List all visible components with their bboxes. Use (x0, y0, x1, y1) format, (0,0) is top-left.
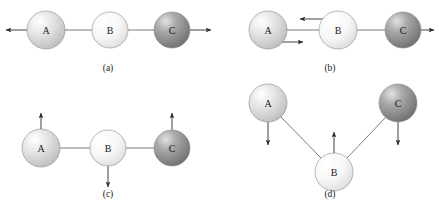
atom-label-c: C (169, 143, 176, 154)
bond-line (281, 117, 321, 158)
atom-label-c: C (395, 98, 402, 109)
atom-label-a: A (264, 25, 272, 36)
panel-c: ABC(c) (22, 113, 190, 200)
panel-caption-b: (b) (324, 63, 335, 74)
panel-caption-d: (d) (324, 189, 335, 200)
atom-label-b: B (331, 167, 338, 178)
bond-line (347, 117, 386, 158)
atom-label-c: C (169, 25, 176, 36)
atom-label-b: B (105, 143, 112, 154)
panel-b: ABC(b) (249, 11, 434, 74)
atom-label-c: C (400, 25, 407, 36)
atom-label-a: A (37, 143, 45, 154)
atom-label-a: A (264, 98, 272, 109)
diagram-canvas: ABC(a)ABC(b)ABC(c)ABC(d) (0, 0, 439, 210)
vibration-modes-figure: ABC(a)ABC(b)ABC(c)ABC(d) (0, 0, 439, 210)
atom-label-a: A (42, 25, 50, 36)
panel-caption-c: (c) (103, 189, 114, 200)
panel-d: ABC(d) (249, 84, 417, 200)
atom-label-b: B (107, 25, 114, 36)
panel-caption-a: (a) (103, 63, 114, 74)
panels-layer: ABC(a)ABC(b)ABC(c)ABC(d) (6, 11, 434, 200)
panel-a: ABC(a) (6, 11, 211, 74)
atom-label-b: B (335, 25, 342, 36)
